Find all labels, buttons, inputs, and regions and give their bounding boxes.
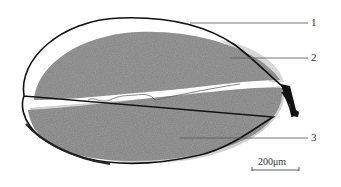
scale-bar-label: 200μm xyxy=(258,156,286,167)
hilum xyxy=(281,84,299,117)
label-2: 2 xyxy=(311,51,317,63)
label-3: 3 xyxy=(311,131,317,143)
seed-micrograph xyxy=(0,0,341,187)
label-1: 1 xyxy=(311,16,317,28)
